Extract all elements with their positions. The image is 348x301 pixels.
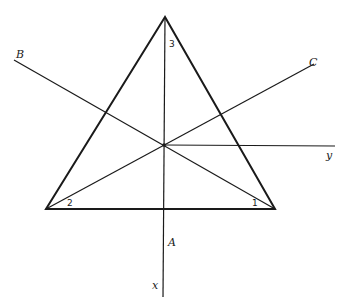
angle-label-2: 2 [67, 198, 73, 208]
label-b: B [15, 48, 24, 61]
x-axis [163, 17, 165, 297]
y-axis [164, 145, 335, 146]
label-c: C [309, 56, 318, 69]
label-a: A [167, 236, 176, 249]
line-c [46, 64, 314, 209]
label-x: x [152, 279, 159, 292]
line-b [14, 60, 275, 209]
triangle [46, 17, 275, 209]
label-y: y [325, 149, 333, 162]
angle-label-1: 1 [252, 198, 258, 208]
geometry-diagram: B C y A x 1 2 3 [0, 0, 348, 301]
angle-label-3: 3 [169, 39, 175, 49]
center-point [162, 143, 166, 147]
